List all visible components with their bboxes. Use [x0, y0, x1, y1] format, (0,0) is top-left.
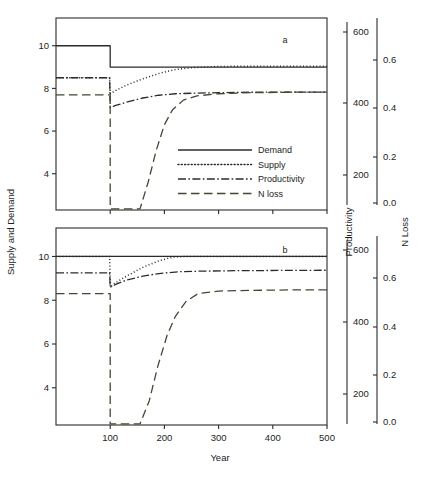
legend-label-demand: Demand: [258, 145, 292, 155]
productivity-axis-title: Productivity: [343, 207, 354, 256]
productivity-axis-b-ticklabel-200: 200: [353, 388, 369, 399]
y-ticklabel-a-4: 4: [44, 168, 49, 179]
productivity-axis-a-ticklabel-400: 400: [353, 97, 369, 108]
x-ticklabel-100: 100: [102, 432, 118, 443]
legend-label-supply: Supply: [258, 160, 286, 170]
y-ticklabel-a-10: 10: [38, 40, 49, 51]
nloss-axis-b-ticklabel-0.0: 0.0: [383, 416, 396, 427]
x-axis-title: Year: [210, 452, 229, 463]
y-ticklabel-b-4: 4: [44, 382, 49, 393]
series-b-productivity: [56, 270, 327, 287]
productivity-axis-a: 200400600: [343, 22, 369, 205]
plot-frame-b: [56, 228, 327, 425]
x-ticklabel-500: 500: [319, 432, 335, 443]
nloss-axis-b-ticklabel-0.4: 0.4: [383, 321, 396, 332]
y-ticklabel-b-6: 6: [44, 338, 49, 349]
productivity-axis-a-ticklabel-200: 200: [353, 169, 369, 180]
y-ticklabel-a-6: 6: [44, 125, 49, 136]
productivity-axis-b-ticklabel-600: 600: [353, 244, 369, 255]
legend-label-n-loss: N loss: [258, 189, 284, 199]
panel-letter-b: b: [282, 245, 287, 255]
x-ticklabel-300: 300: [211, 432, 227, 443]
left-axis-title: Supply and Demand: [5, 189, 16, 275]
panel-a: 46810a: [38, 18, 327, 214]
panel-letter-a: a: [282, 35, 287, 45]
y-ticklabel-b-10: 10: [38, 251, 49, 262]
figure-root: 46810a46810100200300400500b2004006000.60…: [0, 0, 441, 480]
series-a-demand: [56, 46, 327, 67]
nloss-axis-b: 0.60.40.20.0: [373, 236, 396, 427]
nloss-axis-a-ticklabel-0.4: 0.4: [383, 102, 396, 113]
nloss-axis-a-ticklabel-0.0: 0.0: [383, 197, 396, 208]
productivity-axis-b-ticklabel-400: 400: [353, 316, 369, 327]
x-ticklabel-400: 400: [265, 432, 281, 443]
productivity-axis-a-ticklabel-600: 600: [353, 26, 369, 37]
nloss-axis-b-ticklabel-0.2: 0.2: [383, 369, 396, 380]
nloss-axis-a-ticklabel-0.2: 0.2: [383, 151, 396, 162]
y-ticklabel-a-8: 8: [44, 83, 49, 94]
nloss-axis-title: N Loss: [399, 217, 410, 247]
series-a-supply: [56, 66, 327, 94]
productivity-axis-b: 200400600: [343, 240, 369, 424]
legend: DemandSupplyProductivityN loss: [178, 145, 305, 199]
series-b-n-loss: [56, 290, 327, 424]
x-ticklabel-200: 200: [156, 432, 172, 443]
panel-b: 46810100200300400500b: [38, 228, 335, 443]
nloss-axis-a-ticklabel-0.6: 0.6: [383, 54, 396, 65]
nloss-axis-a: 0.60.40.20.0: [373, 18, 396, 208]
legend-label-productivity: Productivity: [258, 174, 305, 184]
nloss-axis-b-ticklabel-0.6: 0.6: [383, 272, 396, 283]
y-ticklabel-b-8: 8: [44, 295, 49, 306]
